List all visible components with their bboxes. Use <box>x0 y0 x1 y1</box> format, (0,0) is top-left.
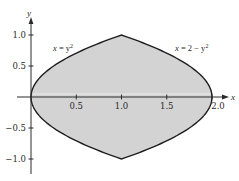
y-tick-label-neg-1.0: −1.0 <box>5 154 26 164</box>
y-tick-label-1.0: 1.0 <box>12 30 26 40</box>
x-axis-label: x <box>230 92 235 102</box>
curve-label-right: x = 2 − y2 <box>174 43 208 54</box>
y-axis-label: y <box>26 8 31 18</box>
x-tick-label-0.5: 0.5 <box>69 101 83 111</box>
x-tick-label-1.0: 1.0 <box>115 101 129 111</box>
x-tick-label-2.0: 2.0 <box>211 101 225 111</box>
x-axis-arrow-icon <box>222 95 229 100</box>
x-tick-label-1.5: 1.5 <box>160 101 174 111</box>
y-tick-label-neg-0.5: −0.5 <box>5 123 26 133</box>
y-tick-label-0.5: 0.5 <box>12 61 26 71</box>
chart: x y 0.5 1.0 1.5 2.0 1.0 0.5 −0.5 −1.0 x … <box>0 0 239 181</box>
y-axis-arrow-icon <box>29 17 34 24</box>
curve-label-left: x = y2 <box>52 43 73 54</box>
